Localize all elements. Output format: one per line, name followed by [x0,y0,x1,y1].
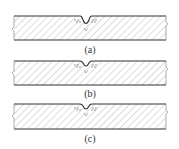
right-break-mark [166,61,168,85]
right-break-mark [166,104,168,129]
panel-c: (c) [12,104,168,145]
panel-b: (b) [12,61,168,100]
panel-label-b: (b) [84,88,96,100]
left-break-mark [12,104,14,129]
right-break-mark [166,16,168,40]
panel-a: (a) [12,16,168,56]
left-break-mark [12,16,14,40]
panel-label-c: (c) [84,133,95,145]
figure-canvas: (a) (b) (c) [0,0,179,149]
panel-label-a: (a) [84,44,95,56]
plate-section [14,104,166,129]
plate-section [14,16,166,40]
plate-section [14,61,166,85]
left-break-mark [12,61,14,85]
